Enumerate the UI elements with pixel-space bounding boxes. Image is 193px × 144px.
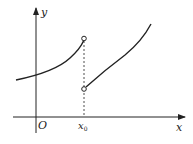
right-branch-curve <box>86 24 151 87</box>
x0-label: x0 <box>78 120 88 132</box>
open-circle-right-limit <box>82 87 87 92</box>
function-graph: y O x0 x <box>0 0 193 144</box>
open-circle-left-limit <box>82 36 87 41</box>
origin-label: O <box>38 119 47 132</box>
y-axis-label: y <box>40 6 48 19</box>
x-axis-label: x <box>176 121 183 134</box>
left-branch-curve <box>16 41 84 80</box>
